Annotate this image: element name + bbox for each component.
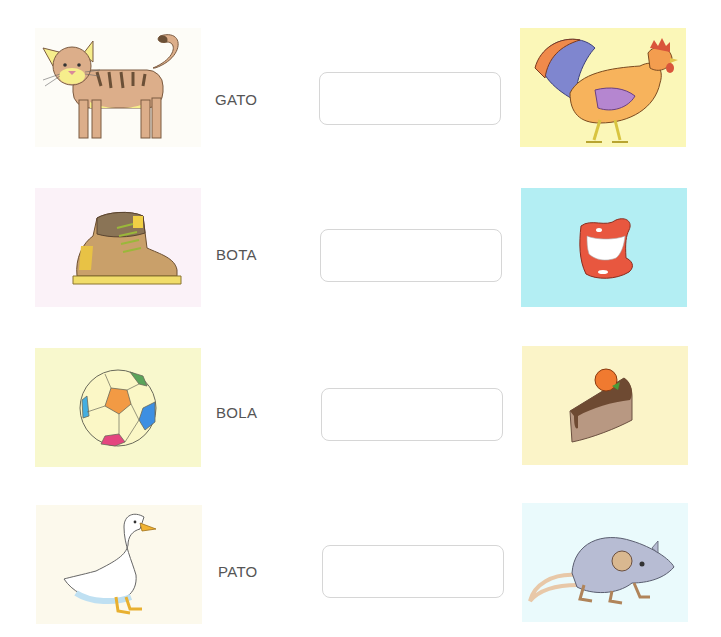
boot-picture — [35, 188, 201, 307]
cat-icon — [35, 28, 201, 147]
cake-picture — [522, 346, 688, 465]
answer-input[interactable] — [320, 229, 502, 282]
word-label: BOLA — [216, 405, 257, 421]
mouse-picture — [522, 503, 688, 622]
word-label: BOTA — [216, 247, 257, 263]
word-label: GATO — [215, 92, 257, 108]
mouth-icon — [521, 188, 687, 307]
mouse-icon — [522, 503, 688, 622]
duck-picture — [36, 505, 202, 624]
cat-picture — [35, 28, 201, 147]
answer-input[interactable] — [322, 545, 504, 598]
ball-picture — [35, 348, 201, 467]
ball-icon — [35, 348, 201, 467]
word-label: PATO — [218, 564, 258, 580]
answer-input[interactable] — [319, 72, 501, 125]
mouth-picture — [521, 188, 687, 307]
answer-input[interactable] — [321, 388, 503, 441]
boot-icon — [35, 188, 201, 307]
cake-icon — [522, 346, 688, 465]
rooster-icon — [520, 28, 686, 147]
duck-icon — [36, 505, 202, 624]
rooster-picture — [520, 28, 686, 147]
